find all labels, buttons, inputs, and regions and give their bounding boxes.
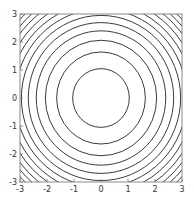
x-tick-label: -1 <box>70 185 78 194</box>
x-tick-label: 2 <box>152 185 157 194</box>
x-tick-label: 0 <box>98 185 103 194</box>
y-tick-label: 3 <box>12 10 17 19</box>
x-tick-label: 3 <box>179 185 184 194</box>
x-tick-label: -3 <box>16 185 24 194</box>
plot-background <box>20 14 182 182</box>
y-tick-label: -1 <box>9 122 17 131</box>
x-tick-label: -2 <box>43 185 51 194</box>
y-tick-label: -3 <box>9 178 17 187</box>
contour-plot: -3-2-10123 -3-2-10123 <box>0 0 194 203</box>
x-tick-label: 1 <box>125 185 130 194</box>
y-tick-label: 0 <box>12 94 17 103</box>
y-tick-label: 2 <box>12 38 17 47</box>
y-tick-label: 1 <box>12 66 17 75</box>
y-tick-label: -2 <box>9 150 17 159</box>
